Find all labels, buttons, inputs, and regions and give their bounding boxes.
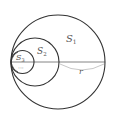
label-s1: S1 [66,33,77,45]
ellipsis-label: ··· [18,64,24,71]
label-radius: r [79,67,84,76]
label-s3: S3 [16,53,25,63]
tangent-circles-diagram: S1 S2 S3 ··· r [0,0,113,124]
label-s2: S2 [37,46,47,57]
